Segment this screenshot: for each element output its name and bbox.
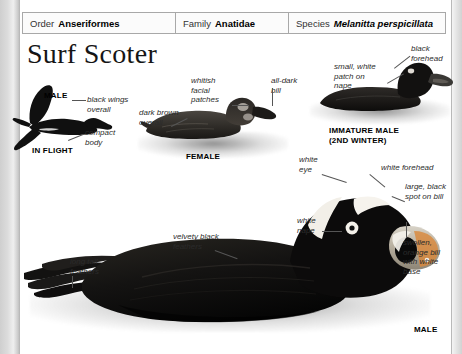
label-immature-male-caption: IMMATURE MALE (2ND WINTER) (329, 126, 399, 145)
leader-line-orange-bill (406, 222, 407, 238)
label-in-flight-caption: IN FLIGHT (32, 146, 73, 156)
taxonomy-cell-order: Order Anseriformes (23, 13, 176, 33)
label-black-wings-overall: black wings overall (87, 95, 128, 114)
label-black-forehead: black forehead (411, 44, 443, 63)
label-white-eye: white eye (299, 155, 318, 174)
taxonomy-rank-family: Family (183, 18, 211, 29)
page-right-margin (452, 0, 462, 354)
taxonomy-header: Order Anseriformes Family Anatidae Speci… (22, 12, 446, 34)
label-velvety-black-feathers: velvety black feathers (173, 232, 219, 251)
label-female-caption: FEMALE (186, 152, 220, 162)
label-whitish-facial-patches: whitish facial patches (191, 76, 219, 105)
leader-line-all-dark-bill (272, 88, 273, 106)
taxonomy-name-species: Melanitta perspicillata (334, 18, 433, 29)
taxonomy-cell-species: Species Melanitta perspicillata (289, 13, 445, 33)
label-large-black-spot-on-bill: large, black spot on bill (405, 182, 446, 201)
leader-line-white-nape (322, 231, 342, 232)
label-male-caption: MALE (414, 325, 437, 335)
taxonomy-name-order: Anseriformes (58, 18, 119, 29)
page-left-margin (0, 0, 19, 354)
taxonomy-rank-order: Order (30, 18, 54, 29)
label-all-dark-bill: all-dark bill (271, 76, 297, 95)
leader-line-whitish-patches (232, 105, 249, 106)
page-title: Surf Scoter (27, 38, 157, 70)
leader-line-black-wings (72, 100, 86, 101)
label-compact-body: compact body (85, 128, 115, 147)
taxonomy-rank-species: Species (296, 18, 330, 29)
label-white-nape: white nape (297, 216, 316, 235)
taxonomy-name-family: Anatidae (215, 18, 255, 29)
leader-line-long-tail (72, 276, 73, 288)
label-small-white-patch-nape: small, white patch on nape (334, 62, 376, 91)
label-swollen-orange-bill: swollen, orange bill with white base (403, 238, 440, 276)
label-long-tail-feathers: long tail feathers (70, 257, 99, 276)
bird-illustration-adult-male (22, 165, 442, 340)
taxonomy-cell-family: Family Anatidae (176, 13, 289, 33)
label-white-forehead: white forehead (381, 163, 433, 173)
label-flight-male-sex: MALE (44, 91, 67, 101)
adult-male-silhouette (22, 165, 442, 340)
